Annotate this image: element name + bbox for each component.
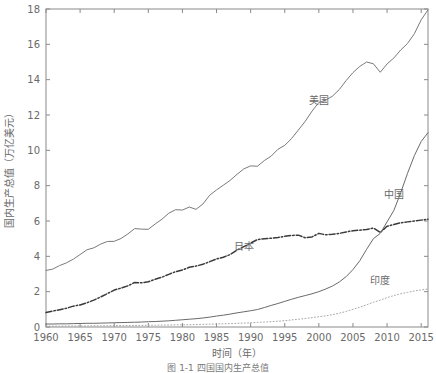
x-tick-label: 1985 (204, 332, 229, 343)
series-label-印度: 印度 (370, 274, 390, 286)
series-line-印度 (46, 289, 428, 326)
x-tick-label: 1965 (67, 332, 92, 343)
y-axis-title: 国内生产总值（万亿美元） (3, 108, 15, 228)
series-line-日本 (46, 219, 428, 312)
series-line-美国 (46, 10, 428, 271)
x-axis-title: 时间（年） (212, 347, 262, 359)
series-label-group: 美国日本中国印度 (234, 94, 404, 285)
y-tick-label: 0 (34, 322, 40, 333)
y-tick-label: 6 (34, 216, 40, 227)
figure-caption: 图 1-1 四国国内生产总值 (167, 362, 268, 373)
series-label-中国: 中国 (384, 188, 404, 200)
x-tick-label: 1960 (33, 332, 58, 343)
gdp-line-chart-figure: 024681012141618 196019651970197519801985… (0, 0, 436, 373)
y-tick-label: 12 (27, 110, 40, 121)
x-tick-label: 2015 (408, 332, 433, 343)
y-tick-label: 18 (27, 4, 40, 15)
x-tick-label: 1980 (170, 332, 195, 343)
series-label-美国: 美国 (309, 94, 329, 106)
x-tick-label: 1990 (238, 332, 263, 343)
y-axis-tick-group: 024681012141618 (27, 4, 428, 333)
x-tick-label: 2005 (340, 332, 365, 343)
y-tick-label: 4 (34, 251, 40, 262)
chart-canvas: 024681012141618 196019651970197519801985… (0, 0, 436, 373)
x-tick-label: 1995 (272, 332, 297, 343)
x-tick-label: 2000 (306, 332, 331, 343)
y-tick-label: 16 (27, 39, 40, 50)
x-axis-tick-group: 1960196519701975198019851990199520002005… (33, 9, 434, 343)
y-tick-label: 10 (27, 145, 40, 156)
y-tick-label: 14 (27, 74, 40, 85)
y-tick-label: 2 (34, 286, 40, 297)
x-tick-label: 1975 (136, 332, 161, 343)
x-tick-label: 1970 (101, 332, 126, 343)
y-tick-label: 8 (34, 180, 40, 191)
x-tick-label: 2010 (374, 332, 399, 343)
series-label-日本: 日本 (234, 240, 254, 252)
